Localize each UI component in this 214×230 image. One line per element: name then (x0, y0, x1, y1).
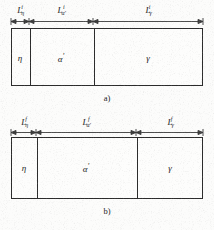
panel-a-domain-box (11, 28, 203, 86)
panel-a-divider-eta-alpha (30, 29, 31, 85)
panel-b-domain-box (11, 137, 203, 199)
panel-b-divider-eta-alpha (37, 138, 38, 198)
panel-b: Lηf Lα′f Lγf (0, 112, 214, 230)
panel-a: Lηi Lα′i Lγi (0, 0, 214, 112)
region-label-gamma-a: γ (146, 53, 150, 63)
region-label-gamma-b: γ (168, 163, 172, 173)
region-label-alpha-prime-b: α′ (83, 162, 89, 174)
panel-a-divider-alpha-gamma (94, 29, 95, 85)
panel-b-divider-alpha-gamma (137, 138, 138, 198)
region-label-eta-a: η (18, 53, 22, 63)
panel-a-dimension-arrows (0, 17, 214, 26)
panel-a-caption: a) (104, 93, 111, 103)
panel-a-dimension-labels: Lηi Lα′i Lγi (0, 2, 214, 18)
panel-b-dimension-arrows (0, 128, 214, 137)
region-label-alpha-prime-a: α′ (58, 52, 64, 64)
figure-container: Lηi Lα′i Lγi (0, 0, 214, 230)
region-label-eta-b: η (22, 163, 26, 173)
panel-b-caption: b) (103, 206, 110, 216)
